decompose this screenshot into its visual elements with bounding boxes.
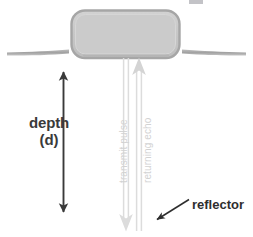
depth-label: depth: [14, 114, 84, 131]
ultrasound-depth-diagram: depth (d) transmit pulse returning echo …: [0, 0, 253, 237]
reflector-label: reflector: [192, 197, 244, 212]
reflector-pointer-arrow: [157, 200, 189, 220]
depth-symbol-label: (d): [14, 131, 84, 148]
transducer: [72, 11, 180, 59]
returning-echo-label: returning echo: [142, 118, 153, 183]
transmit-pulse-label: transmit pulse: [118, 119, 129, 183]
